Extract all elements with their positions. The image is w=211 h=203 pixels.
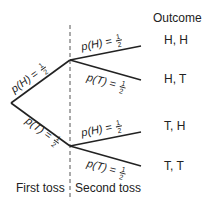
equals-sign: = <box>104 121 113 134</box>
first-toss-label: First toss <box>16 182 65 194</box>
equals-sign: = <box>108 77 117 90</box>
prob-var: p(H) <box>80 37 103 53</box>
outcome-TH: T, H <box>164 120 185 132</box>
outcome-header: Outcome <box>153 12 202 24</box>
prob-var: p(H) <box>80 123 103 139</box>
equals-sign: = <box>104 35 113 48</box>
second-toss-label: Second toss <box>75 182 141 194</box>
outcome-HT: H, T <box>164 73 186 85</box>
equals-sign: = <box>108 163 117 176</box>
outcome-TT: T, T <box>164 160 184 172</box>
equals-sign: = <box>28 67 40 80</box>
outcome-HH: H, H <box>164 34 188 46</box>
